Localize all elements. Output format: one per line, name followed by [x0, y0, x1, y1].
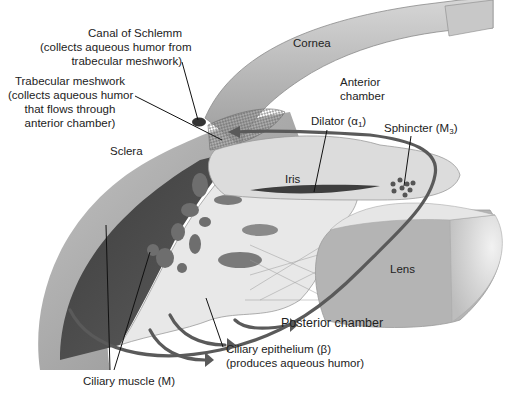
ciliary-epithelium-title: Ciliary epithelium (β)	[226, 342, 364, 356]
dilator-label: Dilator (α1)	[311, 114, 366, 132]
dilator-text: Dilator (α	[311, 115, 358, 127]
canal-of-schlemm-desc-1: (collects aqueous humor from	[40, 40, 182, 54]
posterior-chamber-label: Posterior chamber	[281, 316, 383, 330]
sphincter-close: )	[454, 122, 458, 134]
anterior-chamber-line-2: chamber	[340, 89, 385, 103]
sclera-label: Sclera	[110, 144, 143, 158]
cornea-label: Cornea	[293, 36, 331, 50]
sphincter-text: Sphincter (M	[384, 122, 449, 134]
sphincter-label: Sphincter (M3)	[384, 121, 457, 139]
iris-shape	[208, 136, 460, 200]
anterior-chamber-line-1: Anterior	[340, 75, 385, 89]
ciliary-muscle-label: Ciliary muscle (M)	[83, 374, 175, 388]
trabecular-meshwork-desc-3: anterior chamber)	[8, 116, 132, 130]
dilator-close: )	[362, 115, 366, 127]
eye-aqueous-humor-diagram: Canal of Schlemm (collects aqueous humor…	[0, 0, 514, 399]
canal-of-schlemm-title: Canal of Schlemm	[40, 26, 182, 40]
ciliary-epithelium-label: Ciliary epithelium (β) (produces aqueous…	[226, 342, 364, 370]
canal-of-schlemm-shape	[192, 118, 206, 127]
canal-of-schlemm-label: Canal of Schlemm (collects aqueous humor…	[40, 26, 182, 68]
iris-label: Iris	[285, 172, 300, 186]
trabecular-meshwork-title: Trabecular meshwork	[8, 74, 132, 88]
anterior-chamber-label: Anterior chamber	[340, 75, 385, 103]
trabecular-meshwork-desc-1: (collects aqueous humor	[8, 88, 132, 102]
canal-of-schlemm-desc-2: trabecular meshwork)	[40, 54, 182, 68]
trabecular-meshwork-desc-2: that flows through	[8, 102, 132, 116]
ciliary-epithelium-desc: (produces aqueous humor)	[226, 356, 364, 370]
trabecular-meshwork-label: Trabecular meshwork (collects aqueous hu…	[8, 74, 132, 130]
lens-label: Lens	[390, 262, 415, 276]
